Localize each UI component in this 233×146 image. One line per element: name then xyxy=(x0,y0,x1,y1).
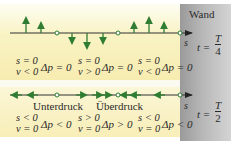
bottom-col-2-v: v = 0 xyxy=(78,123,100,134)
top-col-1-state: s = 0 v < 0 xyxy=(16,55,38,77)
bottom-col-1-dp: Δp < 0 xyxy=(41,118,71,130)
top-col-2-s: s = 0 xyxy=(78,55,100,66)
top-time-numerator: T xyxy=(215,33,221,43)
underpressure-label: Unterdruck xyxy=(33,100,83,112)
overpressure-label: Überdruck xyxy=(96,100,143,112)
bottom-col-1-v: v = 0 xyxy=(16,123,38,134)
top-col-3-v: v < 0 xyxy=(138,66,160,77)
bottom-time-fraction: T 2 xyxy=(215,100,221,123)
top-col-1-dp: Δp = 0 xyxy=(41,61,71,73)
bottom-col-1-state: s < 0 v = 0 xyxy=(16,112,38,134)
bottom-col-2-dp: Δp > 0 xyxy=(102,118,132,130)
top-time-fraction: T 4 xyxy=(215,33,221,56)
bottom-col-3-v: v = 0 xyxy=(138,123,160,134)
top-col-3-dp: Δp = 0 xyxy=(162,61,192,73)
top-col-3-s: s = 0 xyxy=(138,55,160,66)
bottom-col-3-dp: Δp < 0 xyxy=(162,118,192,130)
wall-label: Wand xyxy=(189,8,214,20)
bottom-col-2-state: s > 0 v = 0 xyxy=(78,112,100,134)
top-col-1-s: s = 0 xyxy=(16,55,38,66)
top-time-prefix: t = xyxy=(197,42,210,52)
top-col-1-v: v < 0 xyxy=(16,66,38,77)
top-col-2-state: s = 0 v > 0 xyxy=(78,55,100,77)
top-col-2-dp: Δp = 0 xyxy=(102,61,132,73)
top-col-3-state: s = 0 v < 0 xyxy=(138,55,160,77)
bottom-time-prefix: t = xyxy=(197,109,210,119)
bottom-axis-label: s xyxy=(184,101,188,111)
bottom-col-3-state: s < 0 v = 0 xyxy=(138,112,160,134)
bottom-col-1-s: s < 0 xyxy=(16,112,38,123)
bottom-col-2-s: s > 0 xyxy=(78,112,100,123)
top-time-denominator: 4 xyxy=(215,46,221,56)
bottom-time-numerator: T xyxy=(215,100,221,110)
top-axis-label: s xyxy=(184,38,188,48)
bottom-col-3-s: s < 0 xyxy=(138,112,160,123)
top-axis xyxy=(10,31,192,35)
top-col-2-v: v > 0 xyxy=(78,66,100,77)
bottom-time-denominator: 2 xyxy=(215,113,221,123)
